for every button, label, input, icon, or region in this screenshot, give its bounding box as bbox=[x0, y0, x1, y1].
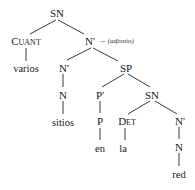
node-p: P bbox=[97, 116, 103, 127]
edge-root-nbar bbox=[58, 20, 84, 34]
node-nbar-top: N' bbox=[85, 36, 95, 47]
edge-sn-nbar bbox=[155, 101, 177, 114]
edge-nbar-nbarleft bbox=[67, 48, 91, 60]
edge-sn-det bbox=[128, 101, 150, 114]
leaf-la: la bbox=[119, 143, 127, 154]
leaf-red: red bbox=[172, 169, 185, 180]
node-cuant: Cuant bbox=[11, 36, 41, 47]
arrow-right-icon: → bbox=[98, 36, 106, 45]
adjunct-annotation: → (adjunto) bbox=[98, 37, 134, 45]
edge-sp-sn bbox=[128, 74, 150, 87]
leaf-en: en bbox=[95, 143, 105, 154]
syntax-tree: SN Cuant varios N' → (adjunto) N' N siti… bbox=[0, 0, 195, 190]
node-n-right: N bbox=[175, 142, 183, 153]
node-nbar-left: N' bbox=[59, 63, 69, 74]
node-sp: SP bbox=[120, 63, 132, 74]
node-det: Det bbox=[118, 116, 136, 127]
node-sn-root: SN bbox=[50, 8, 64, 19]
node-nbar-right: N' bbox=[175, 116, 185, 127]
node-sn-inner: SN bbox=[145, 90, 159, 101]
edge-sp-pbar bbox=[102, 74, 124, 87]
leaf-sitios: sitios bbox=[52, 117, 74, 128]
node-n-left: N bbox=[59, 90, 67, 101]
adjunct-label: (adjunto) bbox=[108, 37, 134, 45]
edge-nbar-sp bbox=[93, 48, 118, 61]
edge-root-quant bbox=[30, 20, 56, 34]
leaf-varios: varios bbox=[13, 63, 39, 74]
node-pbar: P' bbox=[96, 90, 104, 101]
